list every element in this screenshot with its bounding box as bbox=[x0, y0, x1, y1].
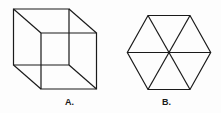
cube-figure-a bbox=[14, 9, 97, 89]
figure-label-b: B. bbox=[162, 97, 171, 107]
figure-panel: A. B. bbox=[0, 0, 221, 113]
figure-drawing bbox=[0, 0, 221, 113]
hexagon-figure-b bbox=[127, 16, 210, 90]
figure-label-a: A. bbox=[65, 97, 74, 107]
